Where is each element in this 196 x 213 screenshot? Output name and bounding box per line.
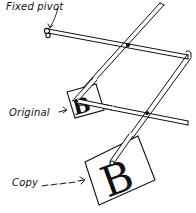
top-horizontal-rod	[48, 29, 188, 59]
pantograph-diagram: B B Fixed pivot Original Copy	[0, 0, 196, 213]
fixed-pivot-label: Fixed pivot	[6, 1, 63, 12]
copy-leader-arrow	[42, 177, 85, 186]
copy-label: Copy	[12, 177, 38, 188]
original-label: Original	[9, 107, 50, 118]
original-leader-arrow	[59, 107, 67, 113]
